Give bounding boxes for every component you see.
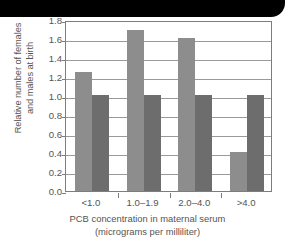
bar-males-0 <box>92 95 109 191</box>
y-axis-tick-label: 1.8 <box>36 16 62 26</box>
y-axis-tick-mark <box>62 79 66 80</box>
y-axis-tick-labels: 1.81.61.41.21.00.80.60.40.20.0 <box>36 17 62 193</box>
y-axis-title-line-1: Relative number of females <box>12 3 24 153</box>
y-axis-tick-label: 0.0 <box>36 187 62 197</box>
bar-males-2 <box>195 95 212 191</box>
top-black-band <box>0 0 285 17</box>
y-axis-title-line-2: and males at birth <box>24 3 36 153</box>
x-axis-category-label: <1.0 <box>65 197 117 209</box>
bar-males-1 <box>144 95 161 191</box>
y-axis-tick-mark <box>62 60 66 61</box>
x-axis-title: PCB concentration in maternal serum (mic… <box>20 212 275 238</box>
bar-males-3 <box>247 95 264 191</box>
bar-females-3 <box>230 152 247 191</box>
x-axis-title-line-1: PCB concentration in maternal serum <box>20 212 275 225</box>
gridline <box>66 60 271 61</box>
chart-figure: Relative number of females and males at … <box>0 17 285 251</box>
plot-area <box>65 21 272 192</box>
y-axis-tick-mark <box>62 193 66 194</box>
y-axis-tick-label: 1.2 <box>36 73 62 83</box>
y-axis-tick-mark <box>62 41 66 42</box>
y-axis-tick-mark <box>62 155 66 156</box>
y-axis-tick-label: 0.4 <box>36 149 62 159</box>
y-axis-tick-label: 0.2 <box>36 168 62 178</box>
y-axis-tick-mark <box>62 117 66 118</box>
x-axis-category-label: >4.0 <box>220 197 272 209</box>
x-axis-category-label: 1.0–1.9 <box>117 197 169 209</box>
y-axis-tick-label: 1.4 <box>36 54 62 64</box>
bar-females-2 <box>178 38 195 191</box>
gridline <box>66 41 271 42</box>
y-axis-tick-label: 0.8 <box>36 111 62 121</box>
y-axis-tick-label: 1.0 <box>36 92 62 102</box>
y-axis-tick-mark <box>62 98 66 99</box>
gridline <box>66 79 271 80</box>
x-axis-title-line-2: (micrograms per milliliter) <box>20 225 275 238</box>
x-axis-tick-labels: <1.01.0–1.92.0–4.0>4.0 <box>65 197 272 211</box>
y-axis-tick-label: 1.6 <box>36 35 62 45</box>
y-axis-tick-label: 0.6 <box>36 130 62 140</box>
bar-females-0 <box>75 72 92 191</box>
x-axis-category-label: 2.0–4.0 <box>169 197 221 209</box>
y-axis-tick-mark <box>62 174 66 175</box>
y-axis-tick-mark <box>62 22 66 23</box>
y-axis-tick-mark <box>62 136 66 137</box>
bar-females-1 <box>127 30 144 191</box>
